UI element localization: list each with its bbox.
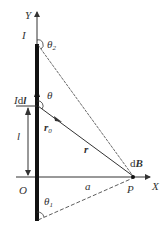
length-arrow-top-icon	[25, 107, 31, 115]
theta2-line	[38, 45, 133, 176]
theta2-label: θ2	[47, 38, 56, 52]
point-p	[131, 175, 135, 179]
x-axis-label: X	[151, 180, 160, 192]
current-label: I	[21, 29, 27, 41]
origin-label: O	[19, 184, 27, 196]
point-p-label: P	[126, 183, 134, 195]
y-axis-label: Y	[25, 9, 33, 21]
r0-label: r0	[44, 121, 52, 135]
idl-label: Idl	[13, 94, 27, 106]
dB-label: dB	[130, 157, 143, 169]
current-arrow-icon	[34, 88, 40, 97]
theta1-label: θ1	[44, 195, 53, 209]
theta-label: θ	[47, 89, 53, 101]
biot-savart-diagram: Y X I θ2 Idl θ l r0 r dB O a P θ1	[0, 0, 163, 234]
r-vector	[38, 106, 133, 176]
r0-arrow-icon	[54, 116, 62, 122]
length-l-label: l	[17, 130, 20, 142]
distance-a-label: a	[85, 180, 91, 192]
r-label: r	[84, 143, 89, 155]
